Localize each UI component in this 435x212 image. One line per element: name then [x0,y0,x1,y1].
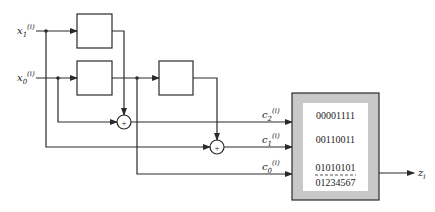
label-x0: x0(i) [17,70,35,86]
adder-1-symbol: + [121,118,126,128]
adder-2-symbol: + [214,143,219,153]
junction-dot [135,76,139,80]
delay-box-1 [77,14,112,48]
delay-box-2 [77,61,112,95]
label-z: zi [417,167,426,181]
delay-box-3 [159,61,193,95]
label-c1: c1(i) [262,132,280,148]
label-x1: x1(i) [17,23,35,39]
mux-row-c1: 00110011 [316,134,355,145]
label-c0: c0(i) [262,159,280,175]
junction-dot [44,29,48,33]
mux-row-c0: 01010101 [316,162,356,173]
label-c2: c2(i) [262,107,280,123]
mux-row-c2: 00001111 [316,110,355,121]
convolutional-encoder-diagram: + + 00001111 00110011 01010101 01234567 … [0,0,435,212]
mux-index-row: 01234567 [316,177,356,188]
junction-dot [56,76,60,80]
